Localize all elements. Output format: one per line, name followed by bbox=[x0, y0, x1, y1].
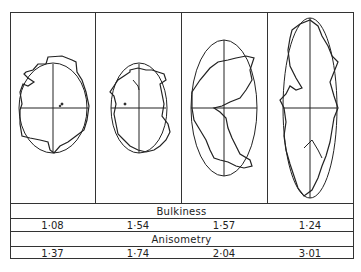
anisometry-value: 3·01 bbox=[267, 248, 353, 259]
anisometry-value: 2·04 bbox=[181, 248, 267, 259]
anisometry-value: 1·37 bbox=[10, 248, 95, 259]
bulkiness-value: 1·57 bbox=[181, 220, 267, 231]
bulkiness-values-row: 1·08 1·54 1·57 1·24 bbox=[10, 218, 353, 231]
anisometry-label: Anisometry bbox=[151, 234, 211, 245]
panel-2-particle bbox=[110, 63, 170, 153]
bulkiness-value: 1·54 bbox=[95, 220, 181, 231]
bulkiness-value: 1·08 bbox=[10, 220, 95, 231]
anisometry-values-row: 1·37 1·74 2·04 3·01 bbox=[10, 246, 353, 259]
panel-4-particle bbox=[280, 18, 338, 198]
anisometry-header: Anisometry bbox=[10, 231, 353, 246]
panel-1-particle bbox=[19, 56, 89, 153]
bulkiness-header: Bulkiness bbox=[10, 203, 353, 218]
bulkiness-label: Bulkiness bbox=[156, 206, 206, 217]
bulkiness-value: 1·24 bbox=[267, 220, 353, 231]
anisometry-value: 1·74 bbox=[95, 248, 181, 259]
panel-3-particle bbox=[191, 40, 257, 176]
